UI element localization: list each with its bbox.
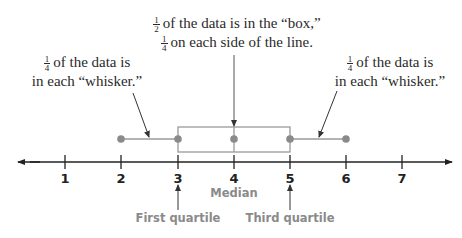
first-quartile-dot bbox=[174, 135, 182, 143]
maximum-dot bbox=[342, 135, 350, 143]
tick-label-1: 1 bbox=[60, 171, 69, 186]
box-plot-diagram: 1 2 3 4 5 6 7 Median First quartile Thir… bbox=[0, 0, 462, 238]
number-line: 1 2 3 4 5 6 7 bbox=[18, 155, 452, 186]
third-quartile-dot bbox=[286, 135, 294, 143]
median-dot bbox=[230, 135, 238, 143]
tick-label-7: 7 bbox=[397, 171, 406, 186]
box-plot bbox=[117, 127, 350, 152]
tick-label-2: 2 bbox=[116, 171, 125, 186]
tick-label-5: 5 bbox=[285, 171, 294, 186]
tick-label-3: 3 bbox=[173, 171, 182, 186]
median-label: Median bbox=[210, 186, 257, 200]
left-callout-arrow-icon bbox=[133, 93, 149, 137]
first-quartile-label: First quartile bbox=[136, 211, 221, 225]
tick-label-6: 6 bbox=[341, 171, 350, 186]
minimum-dot bbox=[117, 135, 125, 143]
third-quartile-label: Third quartile bbox=[246, 211, 335, 225]
tick-label-4: 4 bbox=[229, 171, 238, 186]
right-callout-arrow-icon bbox=[319, 91, 337, 137]
